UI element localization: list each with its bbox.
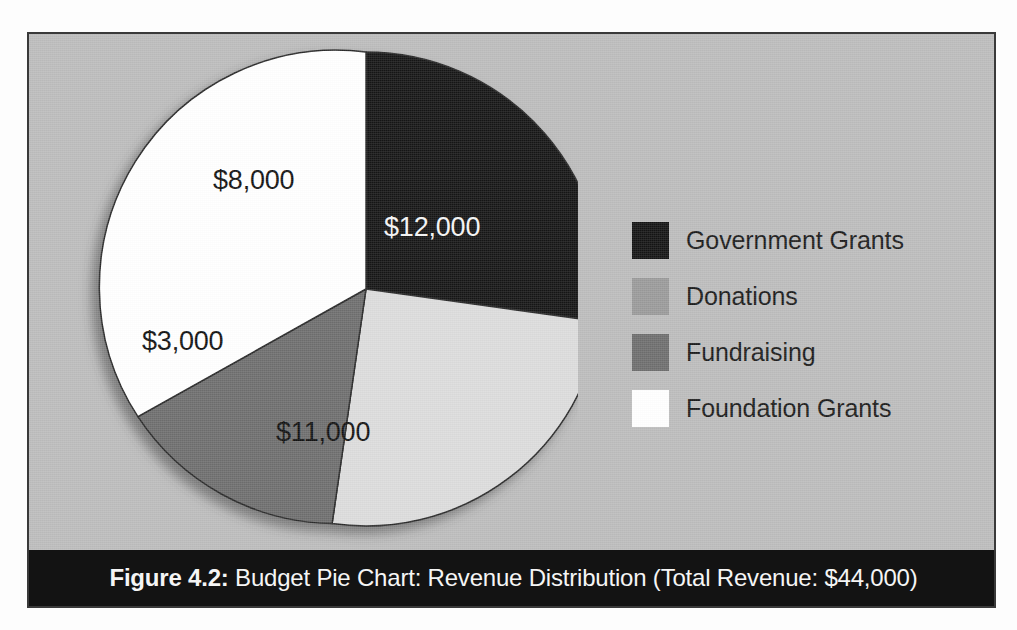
figure-caption-bar: Figure 4.2: Budget Pie Chart: Revenue Di… [29, 550, 996, 606]
pie-label-government-grants: $12,000 [384, 212, 480, 243]
pie-label-foundation-grants: $8,000 [213, 165, 294, 196]
figure-frame: $12,000 $11,000 $3,000 $8,000 Government… [27, 32, 996, 608]
legend-swatch-icon-fundraising [632, 334, 669, 371]
chart-legend: Government Grants Donations Fundraising … [632, 212, 972, 436]
legend-swatch-icon-government-grants [632, 222, 669, 259]
legend-label-donations: Donations [686, 282, 798, 311]
legend-label-fundraising: Fundraising [686, 338, 816, 367]
legend-swatch-icon-foundation-grants [632, 390, 669, 427]
legend-item-fundraising[interactable]: Fundraising [632, 324, 972, 380]
pie-chart: $12,000 $11,000 $3,000 $8,000 [78, 34, 578, 554]
legend-swatch-icon-donations [632, 278, 669, 315]
legend-item-donations[interactable]: Donations [632, 268, 972, 324]
figure-number: Figure 4.2: [109, 564, 228, 591]
legend-label-foundation-grants: Foundation Grants [686, 394, 891, 423]
pie-label-fundraising: $3,000 [142, 326, 223, 357]
pie-label-donations: $11,000 [276, 417, 370, 448]
legend-item-foundation-grants[interactable]: Foundation Grants [632, 380, 972, 436]
figure-caption-body: Budget Pie Chart: Revenue Distribution (… [229, 564, 918, 591]
pie-slice-donations[interactable] [332, 289, 578, 526]
legend-item-government-grants[interactable]: Government Grants [632, 212, 972, 268]
pie-slice-government-grants[interactable] [366, 52, 578, 322]
chart-plot-area: $12,000 $11,000 $3,000 $8,000 Government… [29, 34, 996, 554]
pie-slices-group [99, 50, 578, 526]
pie-chart-svg [78, 34, 578, 554]
figure-root: $12,000 $11,000 $3,000 $8,000 Government… [0, 0, 1017, 630]
legend-label-government-grants: Government Grants [686, 226, 904, 255]
figure-caption: Figure 4.2: Budget Pie Chart: Revenue Di… [109, 564, 917, 592]
